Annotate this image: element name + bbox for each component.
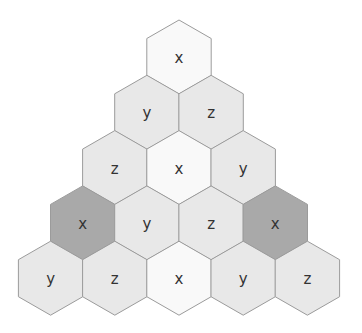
hexagon-pyramid: xyzzxyxyzxyzxyz xyxy=(0,0,362,333)
hex-label: x xyxy=(271,215,280,233)
hex-label: z xyxy=(111,270,119,288)
hex-label: x xyxy=(78,215,87,233)
hex-label: y xyxy=(239,270,248,288)
hex-label: y xyxy=(142,104,151,122)
hex-label: x xyxy=(175,49,184,67)
hex-label: y xyxy=(46,270,55,288)
hex-label: z xyxy=(207,104,215,122)
hex-label: y xyxy=(142,215,151,233)
hex-label: z xyxy=(303,270,311,288)
hex-label: z xyxy=(207,215,215,233)
hex-label: x xyxy=(175,270,184,288)
hex-label: y xyxy=(239,160,248,178)
hex-label: z xyxy=(111,160,119,178)
hex-label: x xyxy=(175,160,184,178)
